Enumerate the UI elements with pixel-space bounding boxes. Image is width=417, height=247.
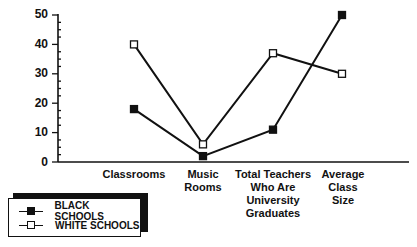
legend: BLACK SCHOOLS WHITE SCHOOLS: [8, 198, 141, 237]
y-axis: [52, 14, 61, 162]
filled-square-marker-icon: [19, 205, 43, 217]
legend-label: WHITE SCHOOLS: [55, 220, 139, 231]
open-square-marker-icon: [131, 41, 138, 48]
open-square-marker-icon: [270, 50, 277, 57]
legend-item-black-schools: BLACK SCHOOLS: [9, 204, 140, 218]
series-line: [134, 15, 342, 156]
filled-square-marker-icon: [200, 153, 207, 160]
y-tick-label: 20: [22, 96, 48, 110]
series-lines: [134, 15, 342, 156]
y-tick-label: 30: [22, 66, 48, 80]
filled-square-marker-icon: [339, 12, 346, 19]
filled-square-marker-icon: [131, 106, 138, 113]
open-square-marker-icon: [19, 219, 43, 231]
y-tick-label: 50: [22, 7, 48, 21]
filled-square-marker-icon: [270, 126, 277, 133]
x-label-teachers-graduates: Total Teachers Who Are University Gradua…: [235, 168, 311, 220]
open-square-marker-icon: [200, 141, 207, 148]
x-label-music-rooms: Music Rooms: [173, 168, 233, 194]
x-label-classrooms: Classrooms: [99, 168, 169, 181]
x-label-average-class-size: Average Class Size: [317, 168, 369, 207]
open-square-marker-icon: [339, 70, 346, 77]
y-tick-label: 0: [22, 155, 48, 169]
y-tick-label: 40: [22, 37, 48, 51]
y-tick-label: 10: [22, 125, 48, 139]
legend-item-white-schools: WHITE SCHOOLS: [9, 218, 139, 232]
